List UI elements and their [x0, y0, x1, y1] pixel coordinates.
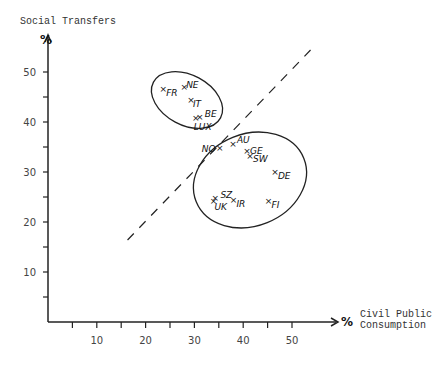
point-marker-icon: × [216, 143, 224, 153]
x-tick-label: 20 [139, 335, 152, 346]
point-label: LUX [194, 122, 213, 132]
x-axis-title-line2: Consumption [360, 320, 426, 331]
x-tick-label: 50 [286, 335, 299, 346]
y-tick-label: 20 [23, 217, 36, 228]
point-label: IR [236, 199, 245, 209]
x-unit-label: % [341, 315, 353, 329]
scatter-chart: 10203040501020304050Social Transfers%%Ci… [0, 0, 441, 365]
chart-container: 10203040501020304050Social Transfers%%Ci… [0, 0, 441, 365]
x-tick-label: 10 [90, 335, 103, 346]
point-marker-icon: × [229, 139, 237, 149]
point-label: FR [166, 88, 177, 98]
point-label: UK [214, 202, 228, 212]
y-axis-title: Social Transfers [20, 16, 116, 27]
x-tick-label: 30 [188, 335, 201, 346]
point-label: IT [193, 99, 203, 109]
point-label: SW [253, 154, 269, 164]
y-tick-label: 40 [23, 117, 36, 128]
y-tick-label: 30 [23, 167, 36, 178]
y-tick-label: 10 [23, 267, 36, 278]
x-axis-title-line1: Civil Public [360, 309, 432, 320]
y-unit-label: % [40, 33, 52, 47]
point-label: DE [278, 171, 291, 181]
cluster-lower-outline [179, 116, 321, 245]
point-label: BE [205, 109, 217, 119]
point-label: FI [272, 200, 280, 210]
point-label: AU [236, 135, 250, 145]
x-tick-label: 40 [237, 335, 250, 346]
y-tick-label: 50 [23, 67, 36, 78]
point-label: NE [186, 80, 199, 90]
point-label: NO [202, 144, 216, 154]
